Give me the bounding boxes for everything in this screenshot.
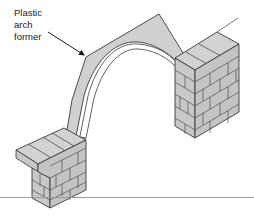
right-brick-pillar [175, 32, 239, 138]
plastic-arch-former [66, 14, 185, 146]
bottom-divider [0, 197, 254, 198]
arch-former-diagram: Plastic arch former [0, 0, 254, 216]
wall-guide-line [217, 18, 238, 32]
label-line-3: former [14, 31, 42, 43]
left-brick-pillar [16, 128, 86, 208]
label-line-1: Plastic [14, 7, 42, 19]
label-line-2: arch [14, 19, 42, 31]
leader-arrow [48, 32, 84, 55]
plastic-arch-former-label: Plastic arch former [14, 7, 42, 43]
